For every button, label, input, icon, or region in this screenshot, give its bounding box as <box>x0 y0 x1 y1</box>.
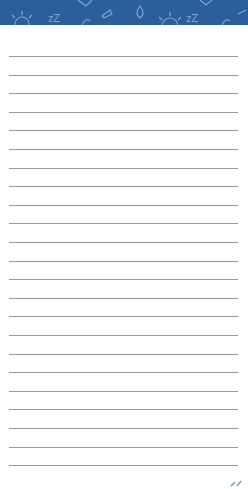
ruled-line <box>9 409 238 410</box>
ruled-line <box>9 149 238 150</box>
ruled-line <box>9 130 238 131</box>
ruled-line <box>9 354 238 355</box>
ruled-line <box>9 56 238 57</box>
ruled-line <box>9 335 238 336</box>
ruled-line <box>9 186 238 187</box>
ruled-line <box>9 447 238 448</box>
ruled-line <box>9 428 238 429</box>
ruled-line <box>9 316 238 317</box>
ruled-line <box>9 298 238 299</box>
ruled-line <box>9 168 238 169</box>
ruled-line <box>9 205 238 206</box>
ruled-line <box>9 112 238 113</box>
corner-decoration-icon <box>230 479 244 487</box>
ruled-line <box>9 75 238 76</box>
ruled-line <box>9 223 238 224</box>
ruled-line <box>9 279 238 280</box>
ruled-line <box>9 372 238 373</box>
ruled-line <box>9 465 238 466</box>
ruled-line <box>9 93 238 94</box>
ruled-line <box>9 391 238 392</box>
ruled-line <box>9 261 238 262</box>
ruled-lines <box>9 0 238 489</box>
ruled-line <box>9 242 238 243</box>
